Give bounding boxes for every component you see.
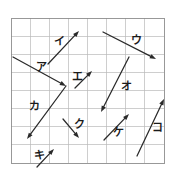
vector-u-label: ウ — [131, 35, 142, 46]
vector-i-label: イ — [54, 36, 65, 47]
vector-u-arrowhead — [149, 54, 156, 59]
vector-o-label: オ — [121, 81, 132, 92]
vector-ka-label: カ — [29, 101, 40, 112]
vector-u-shaft — [103, 32, 152, 57]
vector-ko-arrowhead — [159, 99, 164, 106]
vector-a-label: ア — [36, 62, 47, 73]
vector-ku-label: ク — [74, 119, 85, 130]
vector-a-arrowhead — [59, 81, 66, 86]
vector-diagram-canvas — [0, 0, 175, 175]
vector-ko-label: コ — [152, 122, 163, 133]
vector-ke-label: ケ — [113, 127, 124, 138]
vector-grid-figure: アイウエオカキクケコ — [0, 0, 175, 175]
vector-arrows-group — [13, 31, 164, 167]
vector-e-label: エ — [72, 71, 83, 82]
vector-ki-label: キ — [34, 150, 45, 161]
